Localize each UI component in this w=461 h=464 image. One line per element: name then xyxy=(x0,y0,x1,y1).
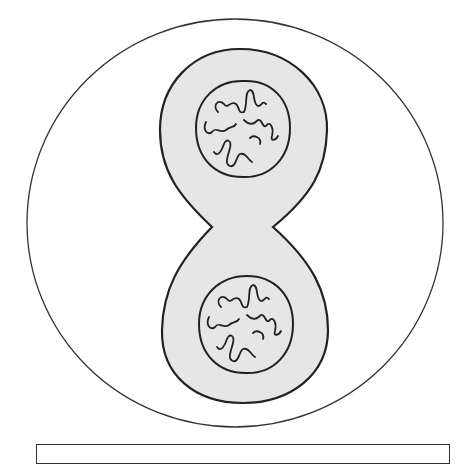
upper-nucleus xyxy=(196,81,290,177)
caption-text xyxy=(37,445,449,449)
caption-box xyxy=(36,444,450,464)
lower-nucleus xyxy=(199,276,293,373)
